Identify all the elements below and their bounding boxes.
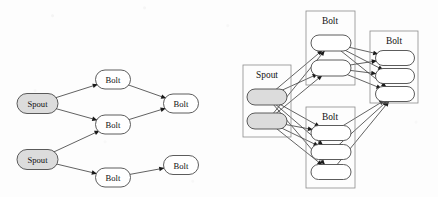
task-R-c3[interactable] — [376, 87, 415, 102]
node-label: Bolt — [174, 161, 189, 171]
edge-L-bolt-2-to-L-bolt-3 — [128, 108, 166, 120]
task-shape — [311, 126, 351, 141]
node-label: Bolt — [106, 173, 121, 183]
task-shape — [311, 60, 351, 76]
task-shape — [247, 113, 287, 129]
edge-L-bolt-4-to-L-bolt-5 — [130, 168, 165, 174]
node-spout-L-spout-1[interactable]: Spout — [17, 94, 58, 114]
task-shape — [376, 51, 415, 66]
task-shape — [311, 35, 351, 51]
group-label: Spout — [256, 70, 278, 80]
node-label: Spout — [27, 155, 48, 165]
task-R-s2[interactable] — [247, 113, 287, 129]
topology-diagram-svg: SpoutBoltBoltBolt SpoutSpoutBoltBoltBolt… — [0, 0, 438, 197]
edge-L-spout-2-to-L-bolt-2 — [52, 131, 99, 153]
task-R-a1[interactable] — [311, 35, 351, 51]
node-label: Bolt — [106, 120, 121, 130]
task-shape — [311, 145, 351, 160]
task-R-b3[interactable] — [311, 165, 351, 180]
node-bolt-L-bolt-5[interactable]: Bolt — [164, 156, 199, 175]
task-R-b2[interactable] — [311, 145, 351, 160]
task-R-c1[interactable] — [376, 51, 415, 66]
node-label: Bolt — [106, 75, 121, 85]
task-R-b1[interactable] — [311, 126, 351, 141]
node-bolt-L-bolt-4[interactable]: Bolt — [96, 168, 131, 187]
task-R-c2[interactable] — [376, 69, 415, 84]
node-bolt-L-bolt-3[interactable]: Bolt — [164, 94, 199, 113]
node-bolt-L-bolt-1[interactable]: Bolt — [96, 70, 131, 89]
task-shape — [376, 87, 415, 102]
node-bolt-L-bolt-2[interactable]: Bolt — [96, 115, 131, 134]
node-label: Bolt — [174, 99, 189, 109]
group-label: Bolt — [322, 112, 339, 122]
node-label: Spout — [27, 99, 48, 109]
task-shape — [311, 165, 351, 180]
group-label: Bolt — [322, 16, 339, 26]
diagram-canvas: SpoutBoltBoltBolt SpoutSpoutBoltBoltBolt… — [0, 0, 438, 197]
task-R-a2[interactable] — [311, 60, 351, 76]
edge-L-spout-1-to-L-bolt-1 — [55, 84, 98, 98]
task-R-s1[interactable] — [247, 89, 287, 105]
edge-L-spout-1-to-L-bolt-2 — [55, 108, 97, 120]
edge-L-spout-2-to-L-bolt-4 — [56, 164, 97, 174]
task-shape — [376, 69, 415, 84]
node-spout-L-spout-2[interactable]: Spout — [17, 150, 58, 170]
task-shape — [247, 89, 287, 105]
group-label: Bolt — [386, 36, 403, 46]
edge-L-bolt-1-to-L-bolt-3 — [128, 85, 167, 99]
